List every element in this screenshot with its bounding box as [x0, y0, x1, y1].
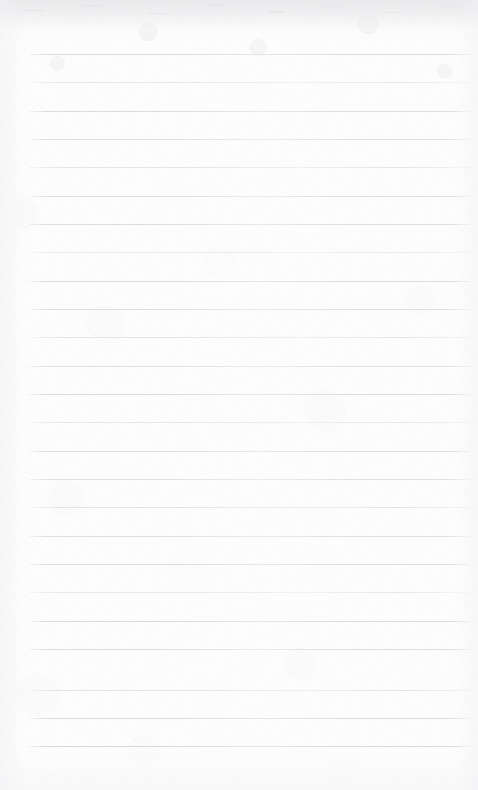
scanned-page: [0, 0, 478, 790]
paper-background: [0, 0, 478, 790]
